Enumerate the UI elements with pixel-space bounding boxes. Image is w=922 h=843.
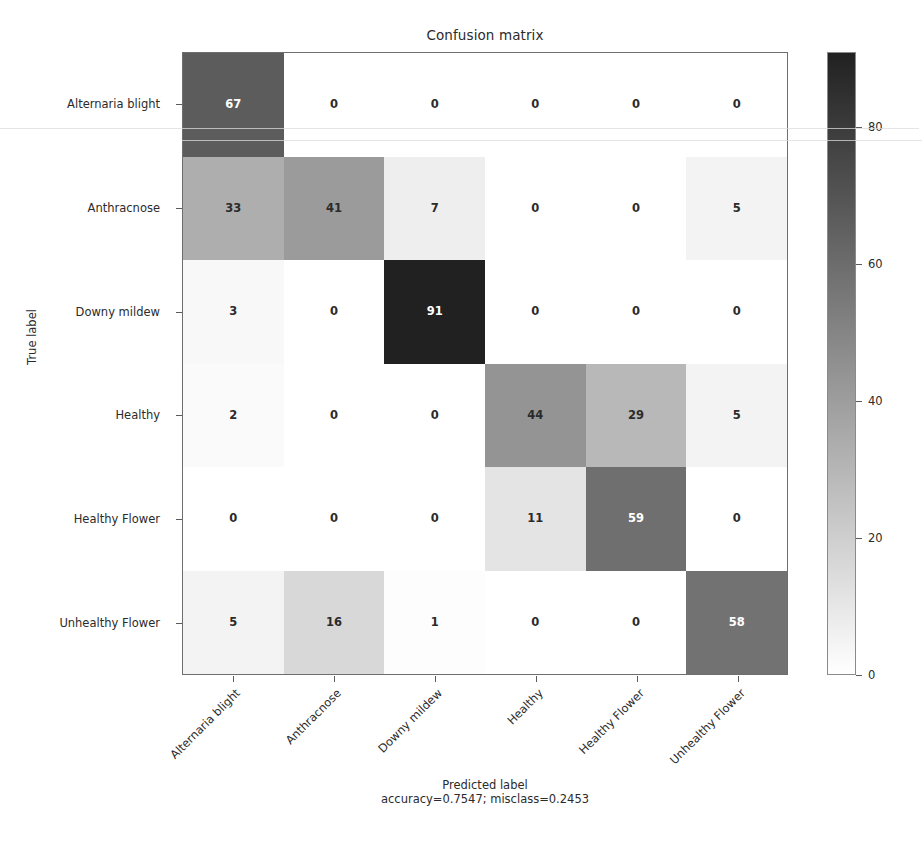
matrix-cell: 58: [686, 571, 787, 675]
matrix-cell: 0: [586, 53, 687, 157]
matrix-cell: 0: [384, 53, 485, 157]
matrix-cell: 11: [485, 467, 586, 571]
matrix-cell: 5: [686, 364, 787, 468]
matrix-cell: 0: [284, 467, 385, 571]
x-axis-label-main: Predicted label: [442, 778, 527, 792]
x-axis-label-metrics: accuracy=0.7547; misclass=0.2453: [182, 792, 788, 806]
matrix-cell: 0: [284, 364, 385, 468]
y-tick-label: Alternaria blight: [67, 97, 160, 111]
matrix-cell: 0: [485, 571, 586, 675]
y-tick-mark: [176, 415, 182, 416]
matrix-cell: 0: [586, 157, 687, 261]
y-tick-mark: [176, 519, 182, 520]
matrix-cell: 0: [686, 53, 787, 157]
matrix-plot-area: 6700000334170053091000200442950001159051…: [182, 52, 788, 675]
colorbar-tick-mark: [856, 538, 862, 539]
page-title: Confusion matrix: [182, 27, 788, 43]
colorbar-tick-mark: [856, 127, 862, 128]
matrix-cell: 44: [485, 364, 586, 468]
colorbar-tick-label: 80: [868, 120, 883, 134]
matrix-cell: 5: [183, 571, 284, 675]
matrix-cell: 0: [384, 364, 485, 468]
y-tick-label: Downy mildew: [76, 305, 160, 319]
matrix-grid: 6700000334170053091000200442950001159051…: [183, 53, 787, 674]
colorbar: [827, 52, 856, 675]
matrix-cell: 59: [586, 467, 687, 571]
matrix-cell: 2: [183, 364, 284, 468]
x-tick-mark: [435, 676, 436, 682]
y-tick-mark: [176, 623, 182, 624]
x-axis-label: Predicted label accuracy=0.7547; misclas…: [182, 778, 788, 807]
matrix-cell: 7: [384, 157, 485, 261]
colorbar-tick-label: 60: [868, 257, 883, 271]
matrix-cell: 0: [485, 157, 586, 261]
colorbar-tick-label: 20: [868, 531, 883, 545]
matrix-cell: 0: [183, 467, 284, 571]
y-tick-label: Healthy Flower: [74, 512, 160, 526]
matrix-cell: 0: [485, 260, 586, 364]
matrix-cell: 67: [183, 53, 284, 157]
y-tick-label: Unhealthy Flower: [59, 616, 160, 630]
matrix-cell: 41: [284, 157, 385, 261]
matrix-cell: 1: [384, 571, 485, 675]
matrix-cell: 0: [586, 571, 687, 675]
y-axis-tick-labels: Alternaria blightAnthracnoseDowny mildew…: [0, 52, 172, 675]
matrix-cell: 0: [384, 467, 485, 571]
matrix-cell: 0: [485, 53, 586, 157]
colorbar-tick-label: 40: [868, 394, 883, 408]
x-tick-mark: [334, 676, 335, 682]
matrix-cell: 0: [686, 467, 787, 571]
x-tick-mark: [637, 676, 638, 682]
y-tick-mark: [176, 104, 182, 105]
x-tick-mark: [233, 676, 234, 682]
colorbar-gradient: [827, 52, 856, 675]
matrix-cell: 0: [284, 53, 385, 157]
colorbar-tick-mark: [856, 675, 862, 676]
y-tick-label: Healthy: [115, 408, 160, 422]
colorbar-tick-label: 0: [868, 668, 875, 682]
matrix-cell: 0: [284, 260, 385, 364]
matrix-cell: 0: [686, 260, 787, 364]
colorbar-tick-mark: [856, 264, 862, 265]
matrix-cell: 29: [586, 364, 687, 468]
y-tick-mark: [176, 312, 182, 313]
matrix-cell: 3: [183, 260, 284, 364]
matrix-cell: 16: [284, 571, 385, 675]
matrix-cell: 0: [586, 260, 687, 364]
x-tick-mark: [536, 676, 537, 682]
matrix-cell: 5: [686, 157, 787, 261]
matrix-cell: 33: [183, 157, 284, 261]
x-tick-mark: [738, 676, 739, 682]
y-tick-label: Anthracnose: [88, 201, 160, 215]
y-tick-mark: [176, 208, 182, 209]
matrix-cell: 91: [384, 260, 485, 364]
colorbar-tick-mark: [856, 401, 862, 402]
